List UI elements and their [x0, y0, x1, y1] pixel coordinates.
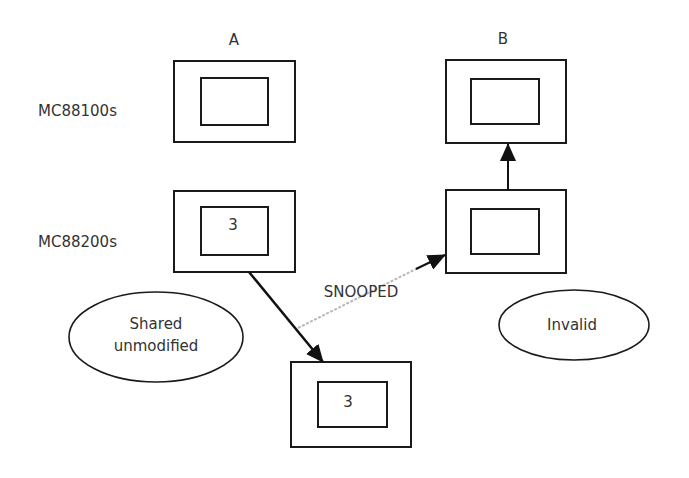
column-label-a: A: [229, 31, 239, 49]
box-value-memory: 3: [343, 393, 353, 411]
cache-box-a-mc88100: [174, 61, 295, 142]
state-label-b: Invalid: [547, 314, 597, 336]
state-label-b-line1: Invalid: [547, 314, 597, 336]
column-label-b: B: [498, 30, 508, 48]
state-label-a-line2: unmodified: [114, 335, 199, 357]
cache-box-b-mc88200: [446, 190, 566, 273]
snoop-label: SNOOPED: [324, 283, 398, 301]
write-arrow: [249, 272, 323, 362]
state-label-a: Shared unmodified: [114, 313, 199, 357]
cache-box-b-mc88100: [446, 60, 566, 143]
snoop-arrow: [416, 255, 445, 269]
box-value-a-mc88200: 3: [228, 216, 238, 234]
state-label-a-line1: Shared: [114, 313, 199, 335]
row-label-mc88100: MC88100s: [38, 102, 117, 120]
row-label-mc88200: MC88200s: [38, 233, 117, 251]
